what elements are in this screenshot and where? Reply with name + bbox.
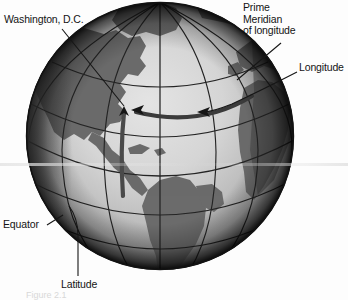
globe-sphere [26, 0, 294, 280]
label-latitude: Latitude [61, 279, 97, 291]
figure-root: Washington, D.C. Prime Meridian of longi… [0, 0, 348, 300]
label-prime-meridian-line1: Prime [243, 2, 329, 14]
label-equator: Equator [3, 219, 39, 231]
globe-illustration [0, 0, 348, 300]
label-washington-dc: Washington, D.C. [4, 14, 84, 26]
label-prime-meridian: Prime Meridian of longitude [243, 2, 329, 37]
figure-caption-faint: Figure 2.1 [26, 290, 67, 300]
label-prime-meridian-line3: of longitude [243, 25, 329, 37]
label-longitude: Longitude [299, 62, 344, 74]
